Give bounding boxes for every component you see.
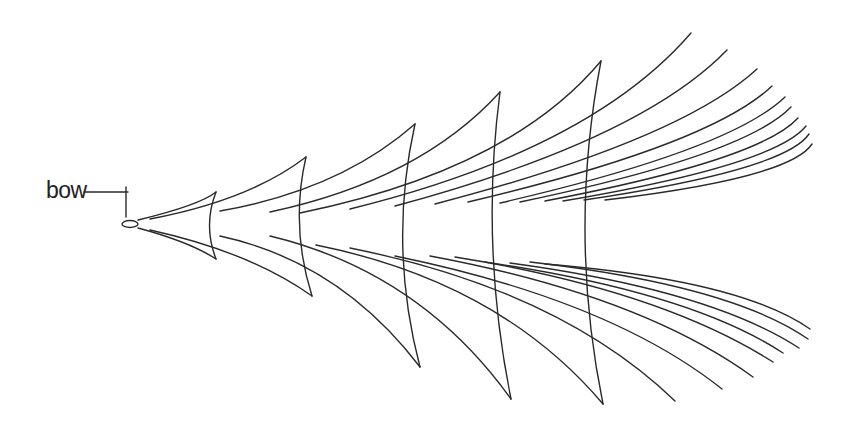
- transverse-wave-crests: [210, 61, 604, 404]
- lower-wave-line-1: [138, 228, 216, 259]
- wave-crest-5: [585, 61, 603, 404]
- upper-wave-line-9: [468, 86, 772, 202]
- wake-pattern-drawing: [0, 0, 853, 429]
- lower-wave-line-5: [316, 245, 603, 404]
- lower-divergent-waves: [138, 228, 810, 404]
- ship-hull: [122, 221, 138, 228]
- bow-label: bow: [46, 177, 87, 204]
- wave-crest-3: [403, 124, 420, 367]
- upper-divergent-waves: [138, 33, 812, 220]
- lower-wave-line-6: [350, 248, 675, 401]
- bow-leader-line: [84, 187, 128, 217]
- wave-crest-2: [299, 157, 312, 296]
- lower-wave-line-9: [455, 257, 773, 362]
- upper-wave-line-6: [350, 33, 691, 209]
- hull-outline: [122, 221, 138, 228]
- upper-wave-line-4: [270, 92, 500, 212]
- lower-wave-line-10: [485, 262, 783, 353]
- upper-wave-line-7: [395, 50, 727, 206]
- wake-diagram: bow: [0, 0, 853, 429]
- lower-wave-line-7: [395, 256, 722, 389]
- upper-wave-line-3: [220, 124, 415, 211]
- lower-wave-line-3: [220, 236, 420, 367]
